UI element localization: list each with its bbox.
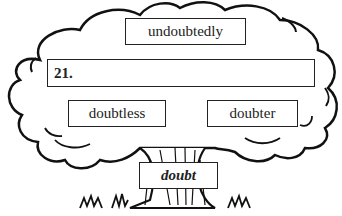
branch-top-word: undoubtedly	[125, 18, 246, 45]
branch-right-word: doubter	[207, 100, 298, 127]
answer-field-21[interactable]: 21.	[47, 59, 315, 87]
root-word: doubt	[139, 162, 218, 189]
branch-left-word: doubtless	[68, 100, 166, 127]
